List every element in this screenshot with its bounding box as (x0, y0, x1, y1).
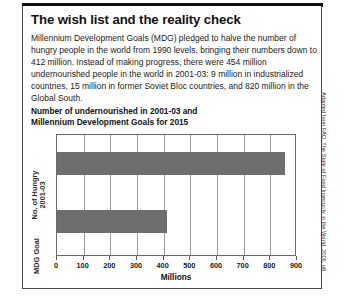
body-paragraph: Millennium Development Goals (MDG) pledg… (31, 32, 317, 104)
x-tick-label: 800 (263, 261, 275, 270)
x-tick (83, 256, 84, 260)
plot-frame (56, 134, 296, 256)
chart-title-line-2: Millennium Development Goals for 2015 (31, 117, 188, 127)
x-tick-label: 300 (130, 261, 142, 270)
x-tick-label: 600 (210, 261, 222, 270)
infographic-page: The wish list and the reality check Mill… (0, 0, 346, 306)
x-tick (216, 256, 217, 260)
x-tick-label: 200 (103, 261, 115, 270)
x-tick-label: 900 (290, 261, 302, 270)
x-tick-label: 100 (77, 261, 89, 270)
x-tick (56, 256, 57, 260)
x-tick-label: 400 (157, 261, 169, 270)
source-credit: Adapted from FAO, The State of Food Inse… (321, 92, 327, 292)
y-axis-label-1: MDG Goal (33, 195, 41, 306)
chart-title-line-1: Number of undernourished in 2001-03 and (31, 106, 197, 116)
x-tick (296, 256, 297, 260)
x-axis-title: Millions (56, 273, 296, 282)
bar-1 (57, 210, 167, 233)
chart-title: Number of undernourished in 2001-03 and … (31, 106, 317, 128)
x-tick (269, 256, 270, 260)
y-axis-labels: No. of Hungry 2001-03 MDG Goal (31, 134, 53, 256)
x-tick (136, 256, 137, 260)
chart-block: Number of undernourished in 2001-03 and … (31, 106, 317, 286)
x-tick-label: 0 (54, 261, 58, 270)
content-panel: The wish list and the reality check Mill… (22, 6, 322, 289)
x-tick-label: 700 (237, 261, 249, 270)
x-tick (189, 256, 190, 260)
x-tick (163, 256, 164, 260)
bar-0 (57, 152, 285, 175)
page-title: The wish list and the reality check (31, 13, 317, 28)
x-tick (109, 256, 110, 260)
text-block: The wish list and the reality check Mill… (31, 13, 317, 104)
chart-area: No. of Hungry 2001-03 MDG Goal 010020030… (31, 134, 317, 286)
x-tick (243, 256, 244, 260)
x-tick-label: 500 (183, 261, 195, 270)
